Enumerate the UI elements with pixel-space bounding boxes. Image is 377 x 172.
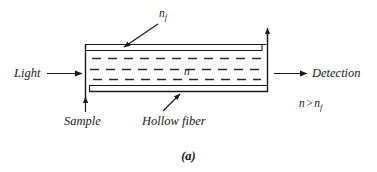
liquid-core-dashes: [90, 59, 263, 80]
cladding-index-leader-line: [124, 24, 158, 47]
sample-label: Sample: [64, 115, 101, 128]
cladding-index-label: nf: [159, 8, 167, 22]
refractive-index-inequality: n>nf: [299, 98, 322, 112]
figure-canvas: Light Detection Sample Hollow fiber nf n…: [0, 0, 377, 172]
hollow-fiber-leader-line: [163, 94, 180, 111]
cladding-index-subscript: f: [165, 13, 167, 22]
figure-caption: (a): [0, 150, 377, 163]
light-label: Light: [14, 67, 40, 80]
inequality-operator: >: [305, 97, 315, 109]
inequality-left-symbol: n: [299, 97, 305, 109]
detection-label: Detection: [312, 67, 361, 80]
core-index-label: n: [184, 66, 190, 78]
diagram-vector-layer: [0, 0, 377, 172]
hollow-fiber-tube: [85, 33, 268, 100]
inequality-right-subscript: f: [320, 103, 322, 112]
hollow-fiber-label: Hollow fiber: [142, 115, 206, 128]
